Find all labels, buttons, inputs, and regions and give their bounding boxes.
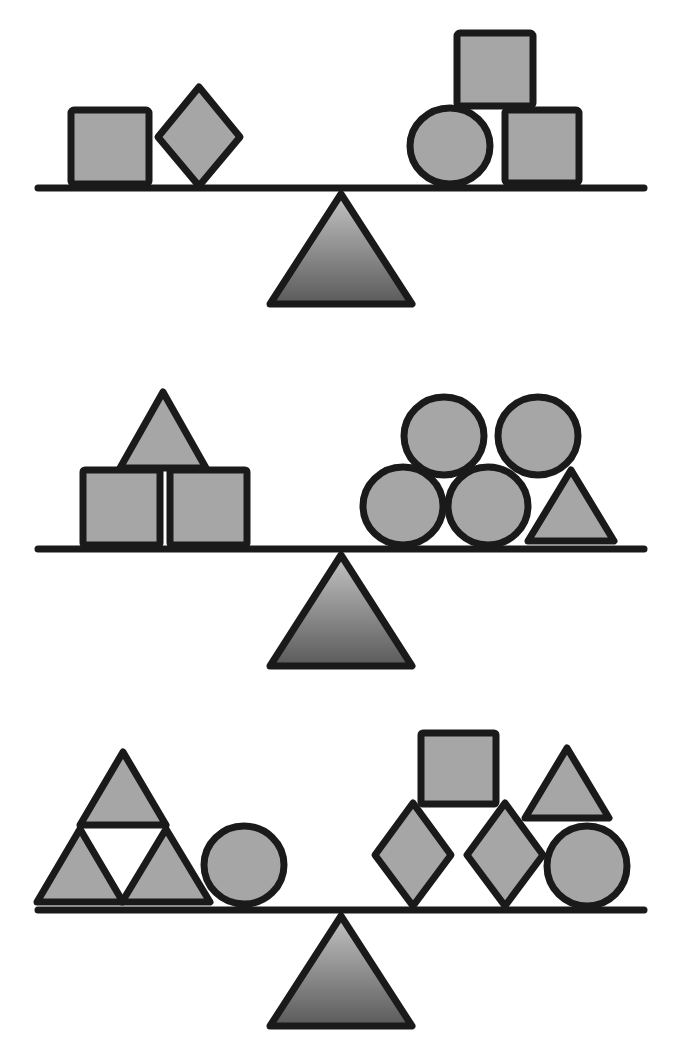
scale-3-left-pan <box>37 752 284 904</box>
fulcrum-triangle <box>270 916 412 1026</box>
square-shape <box>170 470 247 545</box>
square-shape <box>83 470 160 545</box>
balance-puzzle-diagram <box>0 0 677 1063</box>
scale-1 <box>38 33 644 304</box>
circle-shape <box>204 826 284 904</box>
circle-shape <box>547 826 627 906</box>
diamond-shape <box>375 803 451 906</box>
square-shape <box>71 110 149 184</box>
triangle-shape <box>122 829 210 902</box>
scale-3-right-pan <box>375 733 627 906</box>
square-shape <box>457 33 533 106</box>
circle-shape <box>498 397 578 475</box>
square-shape <box>421 733 496 804</box>
scale-2 <box>38 392 644 666</box>
scale-2-left-pan <box>83 392 247 545</box>
triangle-shape <box>528 470 614 541</box>
circle-shape <box>404 397 484 475</box>
scale-1-right-pan <box>410 33 579 184</box>
circle-shape <box>410 108 490 184</box>
square-shape <box>505 110 579 183</box>
scale-3 <box>37 733 644 1026</box>
triangle-shape <box>80 752 166 825</box>
circle-shape <box>363 467 443 545</box>
triangle-shape <box>120 392 206 468</box>
scale-2-right-pan <box>363 397 614 545</box>
diamond-shape <box>158 87 240 186</box>
fulcrum-triangle <box>270 194 412 304</box>
triangle-shape <box>525 748 609 818</box>
fulcrum-triangle <box>270 555 412 666</box>
circle-shape <box>448 467 528 545</box>
triangle-shape <box>37 829 123 902</box>
scale-1-left-pan <box>71 87 240 186</box>
